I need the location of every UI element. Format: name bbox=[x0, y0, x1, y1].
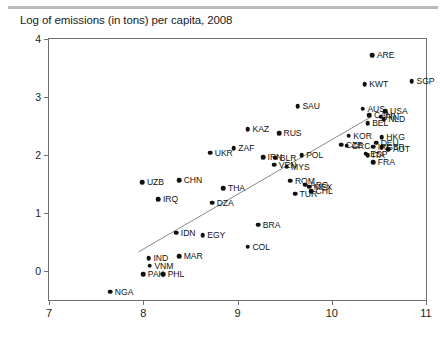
plot-area: 012347891011AREKWTSGPSAUAUSUSACANNLDBELF… bbox=[49, 39, 426, 300]
data-point-label: MYS bbox=[291, 162, 309, 172]
data-point bbox=[210, 200, 215, 205]
data-point bbox=[177, 254, 182, 259]
data-point bbox=[141, 272, 146, 277]
data-point bbox=[161, 272, 166, 277]
x-axis-tick bbox=[426, 300, 427, 305]
data-point bbox=[273, 156, 278, 161]
data-point-label: KWT bbox=[369, 79, 388, 89]
data-point bbox=[362, 82, 367, 87]
data-point-label: ZAF bbox=[238, 143, 254, 153]
data-point bbox=[293, 192, 298, 197]
data-point bbox=[365, 153, 370, 158]
plot-frame: 012347891011AREKWTSGPSAUAUSUSACANNLDBELF… bbox=[48, 38, 427, 301]
chart-root: Log of emissions (in tons) per capita, 2… bbox=[0, 0, 446, 337]
y-axis-tick bbox=[44, 97, 49, 98]
data-point bbox=[256, 222, 261, 227]
data-point-label: PHL bbox=[168, 269, 185, 279]
y-axis-tick bbox=[44, 213, 49, 214]
x-axis-tick bbox=[332, 300, 333, 305]
data-point bbox=[174, 230, 179, 235]
data-point bbox=[371, 160, 376, 165]
data-point-label: BRA bbox=[263, 220, 281, 230]
data-point bbox=[277, 131, 282, 136]
data-point bbox=[410, 79, 415, 84]
data-point-label: IRQ bbox=[163, 194, 178, 204]
data-point bbox=[246, 244, 251, 249]
data-point bbox=[177, 178, 182, 183]
data-point bbox=[365, 121, 370, 126]
data-point-label: CHN bbox=[184, 175, 202, 185]
x-axis-tick bbox=[143, 300, 144, 305]
data-point-label: THA bbox=[228, 183, 245, 193]
y-axis-tick-label: 2 bbox=[35, 149, 41, 161]
data-point bbox=[361, 106, 366, 111]
data-point-label: FRA bbox=[378, 157, 395, 167]
data-point bbox=[261, 155, 266, 160]
data-point-label: CHL bbox=[316, 186, 333, 196]
data-point-label: UKR bbox=[215, 148, 233, 158]
data-point bbox=[221, 186, 226, 191]
data-point-label: AUT bbox=[393, 144, 410, 154]
x-axis-tick bbox=[238, 300, 239, 305]
data-point-label: POL bbox=[306, 150, 323, 160]
y-axis-tick-label: 4 bbox=[35, 33, 41, 45]
y-axis-tick-label: 1 bbox=[35, 207, 41, 219]
data-point-label: MAR bbox=[184, 251, 203, 261]
data-point bbox=[345, 143, 350, 148]
y-axis-tick-label: 3 bbox=[35, 91, 41, 103]
data-point-label: DZA bbox=[217, 198, 234, 208]
y-axis-tick-label: 0 bbox=[35, 265, 41, 277]
data-point-label: COL bbox=[252, 242, 270, 252]
chart-title: Log of emissions (in tons) per capita, 2… bbox=[20, 14, 232, 26]
data-point bbox=[156, 197, 161, 202]
data-point-label: RUS bbox=[284, 128, 302, 138]
data-point bbox=[288, 178, 293, 183]
data-point-label: EGY bbox=[207, 230, 225, 240]
data-point bbox=[140, 180, 145, 185]
data-point bbox=[148, 263, 153, 268]
data-point bbox=[284, 164, 289, 169]
y-axis-tick bbox=[44, 39, 49, 40]
data-point bbox=[147, 256, 152, 261]
data-point bbox=[208, 150, 213, 155]
y-axis-tick bbox=[44, 155, 49, 156]
data-point-label: ARE bbox=[377, 50, 395, 60]
data-point bbox=[367, 113, 372, 118]
x-axis-tick-label: 8 bbox=[140, 307, 146, 319]
regression-line bbox=[49, 39, 426, 300]
data-point bbox=[346, 134, 351, 139]
data-point-label: FIN bbox=[385, 112, 399, 122]
data-point bbox=[108, 290, 113, 295]
x-axis-tick-label: 11 bbox=[420, 307, 431, 319]
data-point-label: KAZ bbox=[252, 124, 269, 134]
x-axis-tick-label: 9 bbox=[234, 307, 240, 319]
data-point bbox=[339, 142, 344, 147]
data-point-label: UZB bbox=[147, 177, 164, 187]
data-point bbox=[200, 233, 205, 238]
data-point bbox=[296, 104, 301, 109]
data-point bbox=[246, 127, 251, 132]
data-point bbox=[299, 153, 304, 158]
data-point bbox=[378, 114, 383, 119]
data-point-label: TUR bbox=[300, 189, 318, 199]
data-point bbox=[272, 163, 277, 168]
y-axis-tick bbox=[44, 271, 49, 272]
data-point-label: GRC bbox=[351, 141, 370, 151]
data-point-label: NGA bbox=[115, 287, 133, 297]
data-point-label: SAU bbox=[302, 101, 320, 111]
x-axis-tick-label: 10 bbox=[326, 307, 338, 319]
data-point-label: SGP bbox=[416, 76, 434, 86]
x-axis-tick-label: 7 bbox=[46, 307, 52, 319]
header-rule bbox=[8, 6, 438, 9]
x-axis-tick bbox=[49, 300, 50, 305]
data-point-label: IDN bbox=[181, 228, 196, 238]
data-point bbox=[370, 53, 375, 58]
